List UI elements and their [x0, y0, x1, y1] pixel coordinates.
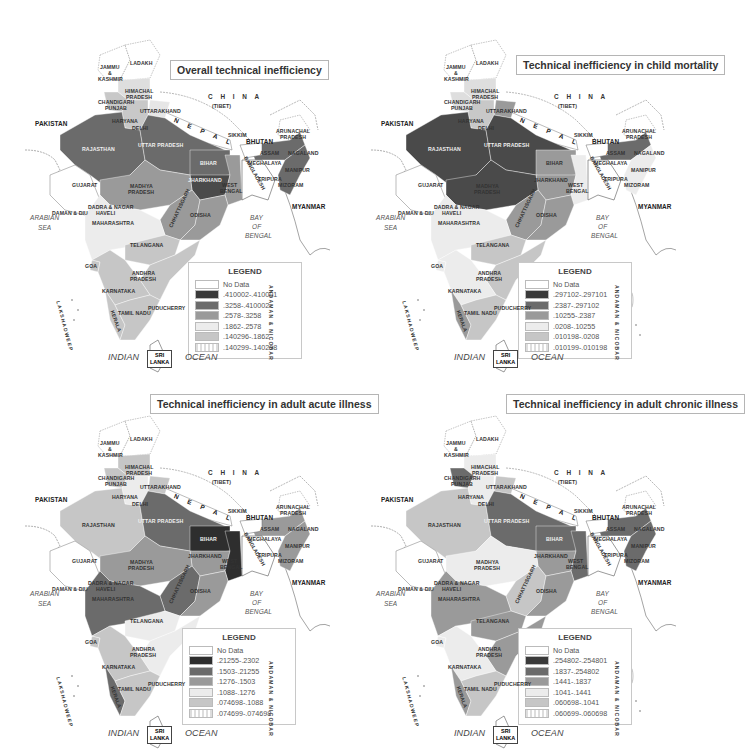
- label-arabian-sea: ARABIAN: [30, 214, 59, 221]
- label-dadra: HAVELI: [96, 586, 115, 592]
- label-pakistan: PAKISTAN: [381, 496, 414, 503]
- label-andhra: PRADESH: [476, 652, 502, 658]
- label-arunachal: PRADESH: [280, 134, 306, 140]
- map-title: Technical inefficiency in child mortalit…: [516, 55, 725, 75]
- legend-swatch: [525, 332, 549, 341]
- label-bhutan: BHUTAN: [592, 514, 619, 521]
- label-manipur: MANIPUR: [631, 167, 656, 173]
- legend-item: .410002-.410001: [195, 290, 295, 301]
- sri: SRI: [496, 728, 515, 735]
- legend-item: .254802-.254801: [525, 656, 625, 667]
- legend-label: .060699-.060698: [553, 709, 607, 718]
- legend-label: .2578-.3258: [223, 311, 261, 320]
- legend-swatch: [525, 709, 549, 718]
- legend-item: .1088-.1276: [189, 687, 289, 698]
- label-telangana: TELANGANA: [476, 242, 509, 248]
- label-sikkim: SIKKIM: [574, 132, 593, 138]
- legend-item: .3258-.410002: [195, 300, 295, 311]
- label-punjab: PUNJAB: [105, 481, 127, 487]
- legend-swatch: [195, 332, 219, 341]
- label-rajasthan: RAJASTHAN: [82, 146, 115, 152]
- label-karnataka: KARNATAKA: [102, 664, 135, 670]
- legend-item: .2578-.3258: [195, 311, 295, 322]
- label-up: UTTAR PRADESH: [484, 518, 529, 524]
- legend-label: No Data: [217, 646, 243, 655]
- label-westbengal: BENGAL: [220, 564, 243, 570]
- label-rajasthan: RAJASTHAN: [82, 522, 115, 528]
- legend-label: .1276-.1503: [217, 677, 255, 686]
- label-uttarakhand: UTTARAKHAND: [486, 108, 527, 114]
- map-title: Technical inefficiency in adult acute il…: [150, 394, 379, 414]
- label-mp: PRADESH: [128, 565, 154, 571]
- label-arabian-sea: ARABIAN: [376, 214, 405, 221]
- legend-item: .1503-.21255: [189, 666, 289, 677]
- label-gujarat: GUJARAT: [72, 182, 97, 188]
- label-myanmar: MYANMAR: [638, 579, 671, 586]
- label-tamilnadu: TAMIL NADU: [118, 686, 151, 692]
- label-bhutan: BHUTAN: [246, 514, 273, 521]
- label-ocean: OCEAN: [531, 728, 564, 738]
- label-sikkim: SIKKIM: [574, 508, 593, 514]
- label-goa: GOA: [85, 639, 97, 645]
- label-goa: GOA: [85, 263, 97, 269]
- label-dadra: HAVELI: [96, 210, 115, 216]
- label-jk: KASHMIR: [98, 452, 123, 458]
- label-bay: BAY: [250, 590, 263, 597]
- label-bengal: BENGAL: [591, 232, 618, 239]
- label-rajasthan: RAJASTHAN: [428, 146, 461, 152]
- label-delhi: DELHI: [132, 125, 148, 131]
- label-sri-lanka: SRILANKA: [147, 726, 172, 744]
- label-sikkim: SIKKIM: [228, 508, 247, 514]
- label-arunachal: PRADESH: [626, 134, 652, 140]
- label-gujarat: GUJARAT: [418, 182, 443, 188]
- legend-label: No Data: [553, 646, 579, 655]
- label-maharashtra: MAHARASHTRA: [92, 596, 134, 602]
- legend-swatch: [525, 322, 549, 331]
- label-karnataka: KARNATAKA: [448, 664, 481, 670]
- label-nagaland: NAGALAND: [288, 150, 318, 156]
- legend-label: .1837-.254802: [553, 667, 599, 676]
- label-andaman: ANDAMAN & NICOBAR: [268, 285, 274, 361]
- legend-item: .010198-.0208: [525, 332, 625, 343]
- label-manipur: MANIPUR: [285, 167, 310, 173]
- lanka: LANKA: [150, 359, 169, 366]
- label-puducherry: PUDUCHERRY: [494, 305, 531, 311]
- legend-label: No Data: [553, 280, 579, 289]
- label-puducherry: PUDUCHERRY: [494, 681, 531, 687]
- label-jk: KASHMIR: [444, 452, 469, 458]
- label-myanmar: MYANMAR: [292, 579, 325, 586]
- legend-label: .1503-.21255: [217, 667, 259, 676]
- legend-swatch: [189, 688, 213, 697]
- label-punjab: PUNJAB: [451, 481, 473, 487]
- label-telangana: TELANGANA: [476, 618, 509, 624]
- label-tamilnadu: TAMIL NADU: [464, 310, 497, 316]
- legend-item: .10255-.2387: [525, 311, 625, 322]
- label-indian-ocean: INDIAN: [454, 728, 485, 738]
- label-pakistan: PAKISTAN: [35, 120, 68, 127]
- label-uttarakhand: UTTARAKHAND: [140, 108, 181, 114]
- label-telangana: TELANGANA: [130, 242, 163, 248]
- label-china: C H I N A: [554, 469, 608, 476]
- label-arabian-sea-2: SEA: [38, 600, 51, 607]
- label-bengal: BENGAL: [245, 608, 272, 615]
- legend-swatch: [525, 667, 549, 676]
- label-of: OF: [598, 599, 607, 606]
- legend-item: .21255-.2302: [189, 656, 289, 667]
- label-china: C H I N A: [208, 93, 262, 100]
- label-jk: KASHMIR: [98, 76, 123, 82]
- sri: SRI: [150, 728, 169, 735]
- label-ladakh: LADAKH: [476, 60, 499, 66]
- label-mp: PRADESH: [474, 189, 500, 195]
- label-ocean: OCEAN: [531, 352, 564, 362]
- label-nagaland: NAGALAND: [634, 150, 664, 156]
- legend-label: .1862-.2578: [223, 322, 261, 331]
- legend-swatch: [195, 290, 219, 299]
- label-mp: PRADESH: [128, 189, 154, 195]
- legend-swatch: [195, 280, 219, 289]
- legend-swatch: [195, 322, 219, 331]
- label-bengal: BENGAL: [591, 608, 618, 615]
- legend-item: .1862-.2578: [195, 321, 295, 332]
- label-delhi: DELHI: [478, 501, 494, 507]
- map-legend: LEGENDNo Data.21255-.2302.1503-.21255.12…: [182, 628, 296, 725]
- legend-item: .074698-.1088: [189, 698, 289, 709]
